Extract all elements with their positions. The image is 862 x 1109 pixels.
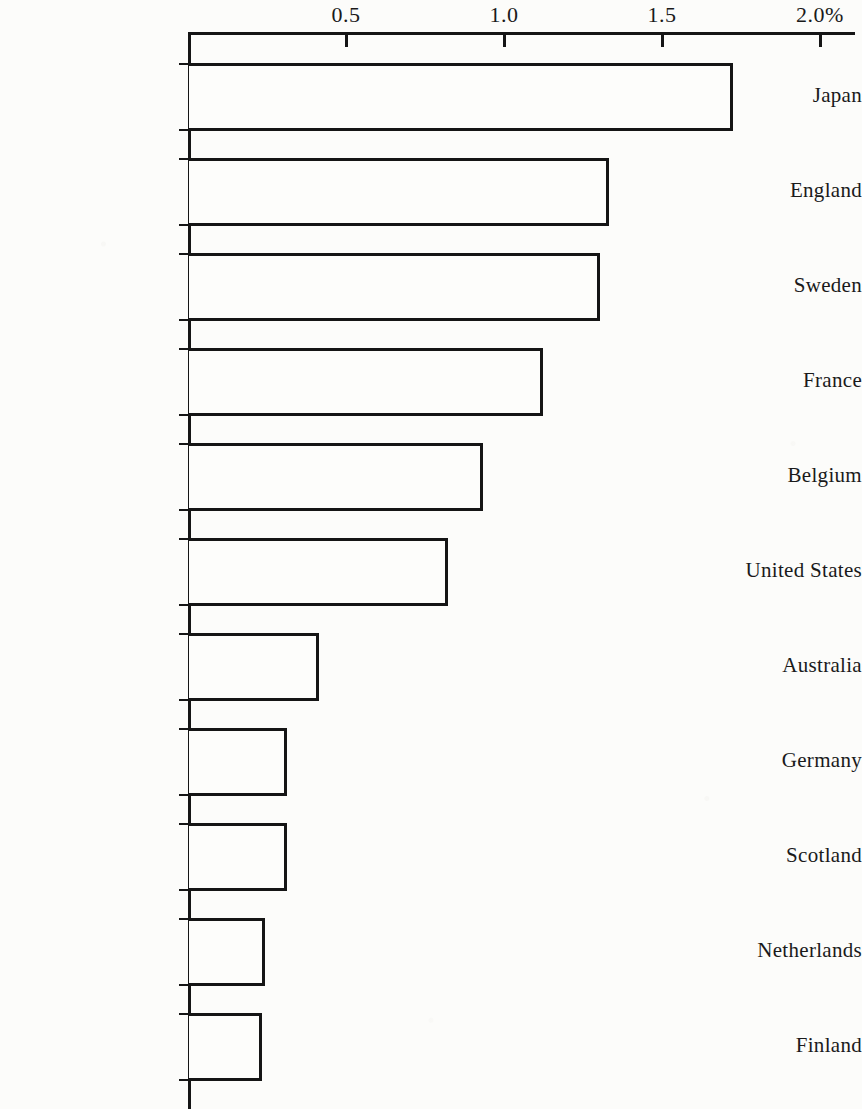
bar [189,158,609,226]
category-label: Sweden [684,273,862,298]
y-axis-tick-mark [179,728,188,730]
category-label: France [684,368,862,393]
y-axis-tick-mark [179,63,188,65]
y-axis-tick-mark [179,1079,188,1081]
y-axis-tick-mark [179,509,188,511]
x-axis-tick-label: 1.0 [490,2,519,28]
category-label: England [684,178,862,203]
y-axis-tick-mark [179,889,188,891]
bar [189,823,287,891]
y-axis-tick-mark [179,604,188,606]
bar [189,538,448,606]
x-axis-tick-label: 0.5 [332,2,361,28]
category-label: Belgium [684,463,862,488]
bar [189,1013,262,1081]
x-axis-tick-mark [345,35,348,47]
bar [189,443,483,511]
y-axis-tick-mark [179,348,188,350]
bar [189,253,600,321]
category-label: Australia [684,653,862,678]
bar [189,918,265,986]
x-axis-tick-label: 1.5 [648,2,677,28]
y-axis-tick-mark [179,158,188,160]
category-label: Finland [684,1033,862,1058]
y-axis-tick-mark [179,633,188,635]
bar [189,728,287,796]
y-axis-tick-mark [179,319,188,321]
x-axis-tick-mark [819,35,822,47]
y-axis-tick-mark [179,538,188,540]
category-label: Japan [684,83,862,108]
bar [189,63,733,131]
category-label: United States [684,558,862,583]
bar [189,348,543,416]
y-axis-tick-mark [179,794,188,796]
bar-chart-figure: 0.51.01.52.0% JapanEnglandSwedenFranceBe… [0,0,862,1109]
y-axis-tick-mark [179,224,188,226]
y-axis-tick-mark [179,414,188,416]
category-label: Germany [684,748,862,773]
y-axis-tick-mark [179,253,188,255]
category-label: Scotland [684,843,862,868]
y-axis-tick-mark [179,918,188,920]
y-axis-tick-mark [179,984,188,986]
y-axis-tick-mark [179,443,188,445]
y-axis-tick-mark [179,823,188,825]
bar [189,633,319,701]
x-axis-tick-label: 2.0% [796,2,844,28]
y-axis-tick-mark [179,1013,188,1015]
x-axis-tick-mark [503,35,506,47]
x-axis-tick-mark [661,35,664,47]
y-axis-tick-mark [179,129,188,131]
x-axis-line [188,32,855,35]
category-label: Netherlands [684,938,862,963]
y-axis-tick-mark [179,699,188,701]
